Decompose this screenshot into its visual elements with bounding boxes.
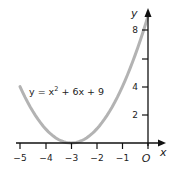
origin-label: O xyxy=(142,152,151,165)
x-tick-label: −1 xyxy=(116,153,129,163)
parabola-chart: −5 −4 −3 −2 −1 O x 2 4 8 y y = x2 + 6x +… xyxy=(0,0,175,184)
x-axis-label: x xyxy=(159,146,167,159)
y-tick-label: 2 xyxy=(132,110,138,120)
y-axis-arrow-icon xyxy=(145,8,152,17)
x-tick-label: −4 xyxy=(39,153,53,163)
x-tick-label: −5 xyxy=(13,153,26,163)
x-tick-label: −2 xyxy=(90,153,103,163)
x-ticks xyxy=(20,143,148,149)
y-ticks xyxy=(142,30,148,115)
parabola-curve xyxy=(20,16,148,143)
y-axis-label: y xyxy=(130,7,138,20)
x-tick-label: −3 xyxy=(65,153,78,163)
equation-label: y = x2 + 6x + 9 xyxy=(29,85,104,97)
y-tick-label: 8 xyxy=(132,25,138,35)
y-tick-label: 4 xyxy=(132,82,138,92)
